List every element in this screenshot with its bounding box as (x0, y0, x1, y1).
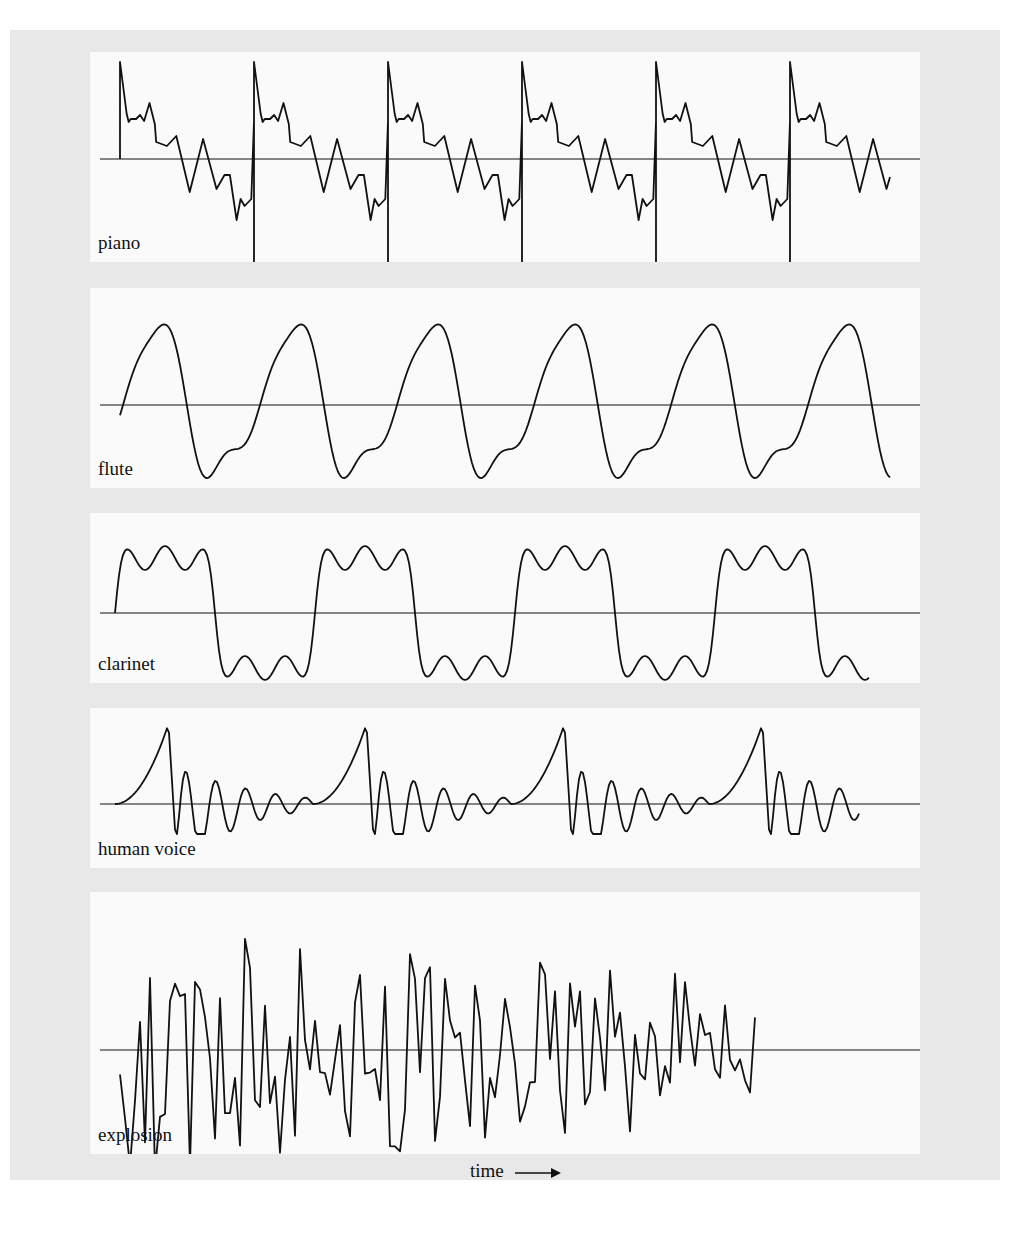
explosion-waveform (90, 892, 920, 1154)
clarinet-waveform (90, 513, 920, 683)
clarinet-label: clarinet (98, 653, 155, 675)
piano-panel: piano (90, 52, 920, 262)
figure-background: piano flute clarinet human voice explosi… (10, 30, 1000, 1180)
flute-waveform (90, 288, 920, 488)
arrow-right-icon (513, 1167, 563, 1179)
explosion-label: explosion (98, 1124, 172, 1146)
flute-label: flute (98, 458, 133, 480)
time-axis-label: time (470, 1160, 504, 1182)
piano-label: piano (98, 232, 140, 254)
flute-panel: flute (90, 288, 920, 488)
explosion-panel: explosion (90, 892, 920, 1154)
human-voice-label: human voice (98, 838, 196, 860)
piano-waveform (90, 52, 920, 262)
clarinet-panel: clarinet (90, 513, 920, 683)
human-voice-panel: human voice (90, 708, 920, 868)
human-voice-waveform (90, 708, 920, 868)
